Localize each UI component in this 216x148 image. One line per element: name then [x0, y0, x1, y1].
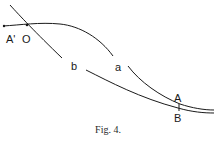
- label-B: B: [174, 113, 181, 124]
- curve-b-upper: [10, 5, 62, 58]
- point-a-prime-dot: [3, 25, 5, 27]
- label-A: A: [174, 93, 181, 104]
- label-o: O: [22, 34, 31, 45]
- label-b: b: [71, 61, 77, 72]
- figure-caption: Fig. 4.: [0, 124, 216, 135]
- curve-a-lower: [128, 66, 214, 110]
- curve-a-upper: [3, 23, 113, 56]
- figure-4: A' O b a A B Fig. 4.: [0, 0, 216, 148]
- label-a: a: [115, 62, 121, 73]
- label-a-prime: A': [6, 34, 15, 45]
- curve-b-lower: [86, 70, 214, 113]
- point-o-dot: [26, 24, 29, 27]
